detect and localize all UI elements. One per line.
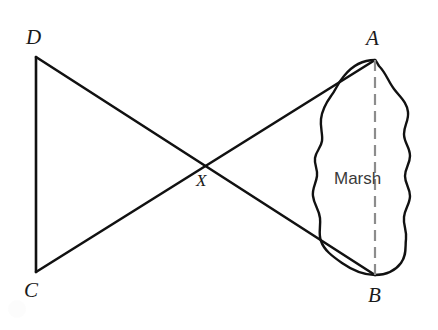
marsh-label: Marsh xyxy=(334,170,381,187)
geometry-diagram: D C A B X Marsh xyxy=(0,0,438,330)
marsh-region-outline xyxy=(313,60,410,275)
vertex-label-b: B xyxy=(368,285,381,306)
vertex-label-a: A xyxy=(366,28,379,49)
vertex-label-d: D xyxy=(26,27,41,48)
scan-artifact xyxy=(8,300,26,318)
vertex-label-c: C xyxy=(24,280,38,301)
segment-ca xyxy=(36,60,375,272)
vertex-label-x: X xyxy=(196,172,206,189)
